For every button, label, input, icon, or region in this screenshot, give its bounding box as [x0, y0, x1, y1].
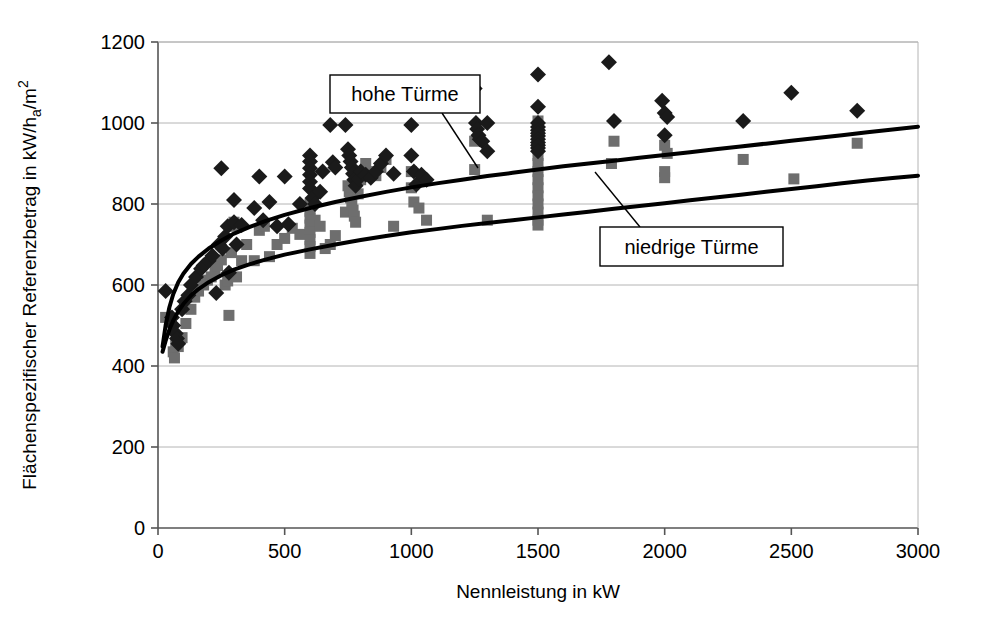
x-axis-tick-label: 500	[268, 540, 301, 562]
data-point-square	[852, 138, 863, 149]
data-point-square	[788, 173, 799, 184]
data-point-square	[421, 215, 432, 226]
series-hohe-tuerme-markers	[158, 54, 866, 351]
data-point-square	[388, 221, 399, 232]
data-point-diamond	[530, 66, 546, 82]
y-axis-tick-label: 0	[134, 517, 145, 539]
data-point-diamond	[261, 194, 277, 210]
data-point-diamond	[251, 168, 267, 184]
data-point-diamond	[403, 117, 419, 133]
data-point-diamond	[606, 113, 622, 129]
data-point-diamond	[386, 166, 402, 182]
x-axis-tick-label: 0	[152, 540, 163, 562]
x-axis-tick-label: 1000	[389, 540, 434, 562]
y-axis-tick-label: 400	[112, 355, 145, 377]
data-point-diamond	[601, 54, 617, 70]
data-point-square	[180, 318, 191, 329]
annotation-label: hohe Türme	[351, 83, 458, 105]
data-point-diamond	[403, 147, 419, 163]
data-point-diamond	[277, 168, 293, 184]
data-point-diamond	[226, 192, 242, 208]
data-point-square	[350, 217, 361, 228]
x-axis-tick-label: 2500	[769, 540, 814, 562]
chart-container: 020040060080010001200 050010001500200025…	[0, 0, 986, 637]
data-point-diamond	[783, 85, 799, 101]
annotation-label: niedrige Türme	[624, 236, 758, 258]
y-axis-title: Flächenspezifischer Referenzbetrag in kW…	[15, 80, 44, 490]
data-point-diamond	[657, 127, 673, 143]
data-point-square	[659, 172, 670, 183]
annotation-leader-line	[595, 172, 640, 227]
data-point-diamond	[530, 99, 546, 115]
x-axis-tick-labels: 050010001500200025003000	[152, 528, 940, 562]
x-axis-tick-label: 1500	[516, 540, 561, 562]
y-axis-tick-labels: 020040060080010001200	[101, 31, 159, 539]
data-point-diamond	[849, 103, 865, 119]
data-point-square	[330, 230, 341, 241]
data-point-diamond	[246, 200, 262, 216]
y-axis-tick-label: 800	[112, 193, 145, 215]
x-axis-title: Nennleistung in kW	[456, 581, 620, 602]
data-point-square	[609, 136, 620, 147]
x-axis-tick-label: 3000	[896, 540, 941, 562]
data-point-square	[223, 310, 234, 321]
data-point-diamond	[213, 160, 229, 176]
data-point-diamond	[337, 117, 353, 133]
data-point-diamond	[322, 117, 338, 133]
data-point-square	[469, 164, 480, 175]
data-point-square	[169, 352, 180, 363]
data-point-diamond	[315, 164, 331, 180]
y-axis-tick-label: 200	[112, 436, 145, 458]
data-point-square	[294, 229, 305, 240]
data-point-square	[738, 154, 749, 165]
y-axis-tick-label: 1000	[101, 112, 146, 134]
data-point-square	[413, 203, 424, 214]
scatter-chart: 020040060080010001200 050010001500200025…	[0, 0, 986, 637]
data-point-square	[279, 233, 290, 244]
data-point-square	[533, 220, 544, 231]
data-point-square	[315, 221, 326, 232]
data-point-diamond	[735, 113, 751, 129]
y-axis-tick-label: 1200	[101, 31, 146, 53]
x-axis-tick-label: 2000	[642, 540, 687, 562]
y-axis-tick-label: 600	[112, 274, 145, 296]
data-point-diamond	[654, 93, 670, 109]
